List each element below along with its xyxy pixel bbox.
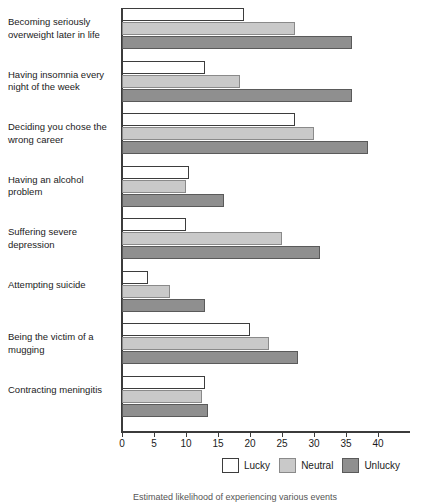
bar-group: [122, 271, 410, 313]
bar-group: [122, 218, 410, 260]
bar-group: [122, 376, 410, 418]
bar-group: [122, 113, 410, 155]
bar-row: [122, 113, 410, 126]
legend-label: Lucky: [244, 460, 270, 471]
category-label: Having insomnia every night of the week: [8, 69, 116, 94]
x-tick: [282, 432, 283, 437]
bar-row: [122, 166, 410, 179]
bar-unlucky: [122, 404, 208, 417]
bar-group: [122, 166, 410, 208]
bar-unlucky: [122, 194, 224, 207]
bar-lucky: [122, 376, 205, 389]
x-tick: [378, 432, 379, 437]
bar-unlucky: [122, 89, 352, 102]
category-label: Contracting meningitis: [8, 384, 116, 397]
bar-neutral: [122, 180, 186, 193]
x-tick-label: 0: [119, 438, 125, 449]
bar-row: [122, 194, 410, 207]
bar-row: [122, 246, 410, 259]
x-tick-label: 15: [212, 438, 223, 449]
legend-item: Neutral: [279, 458, 333, 473]
bar-lucky: [122, 271, 148, 284]
bar-row: [122, 75, 410, 88]
legend-item: Lucky: [222, 458, 270, 473]
x-tick-label: 10: [180, 438, 191, 449]
lucky-swatch: [222, 458, 239, 473]
bar-row: [122, 232, 410, 245]
bar-row: [122, 180, 410, 193]
x-tick: [314, 432, 315, 437]
x-tick: [186, 432, 187, 437]
bar-row: [122, 299, 410, 312]
category-label: Having an alcohol problem: [8, 174, 116, 199]
bar-row: [122, 8, 410, 21]
bar-unlucky: [122, 299, 205, 312]
x-tick-label: 20: [244, 438, 255, 449]
bar-row: [122, 218, 410, 231]
bar-unlucky: [122, 351, 298, 364]
bar-row: [122, 61, 410, 74]
bar-row: [122, 271, 410, 284]
bar-row: [122, 89, 410, 102]
bar-unlucky: [122, 141, 368, 154]
bar-neutral: [122, 390, 202, 403]
bar-row: [122, 351, 410, 364]
bar-row: [122, 285, 410, 298]
x-tick-label: 35: [340, 438, 351, 449]
bar-unlucky: [122, 246, 320, 259]
unlucky-swatch: [342, 458, 359, 473]
bar-group: [122, 61, 410, 103]
legend-label: Neutral: [301, 460, 333, 471]
category-label: Suffering severe depression: [8, 226, 116, 251]
bar-neutral: [122, 22, 295, 35]
bar-group: [122, 323, 410, 365]
category-label: Attempting suicide: [8, 279, 116, 292]
bar-row: [122, 141, 410, 154]
x-tick: [122, 432, 123, 437]
neutral-swatch: [279, 458, 296, 473]
x-tick: [250, 432, 251, 437]
x-tick: [218, 432, 219, 437]
x-tick-label: 40: [372, 438, 383, 449]
bar-row: [122, 22, 410, 35]
bar-row: [122, 337, 410, 350]
bar-row: [122, 323, 410, 336]
bar-row: [122, 390, 410, 403]
bar-row: [122, 404, 410, 417]
bar-row: [122, 36, 410, 49]
chart-legend: LuckyNeutralUnlucky: [222, 458, 400, 473]
bar-neutral: [122, 127, 314, 140]
bar-row: [122, 127, 410, 140]
category-label: Being the victim of a mugging: [8, 331, 116, 356]
bar-lucky: [122, 323, 250, 336]
plot-area: [122, 8, 410, 432]
x-tick: [154, 432, 155, 437]
bar-neutral: [122, 75, 240, 88]
chart-caption: Estimated likelihood of experiencing var…: [70, 492, 400, 503]
bar-unlucky: [122, 36, 352, 49]
bar-neutral: [122, 337, 269, 350]
bar-lucky: [122, 166, 189, 179]
category-label: Deciding you chose the wrong career: [8, 121, 116, 146]
legend-label: Unlucky: [364, 460, 400, 471]
bar-row: [122, 376, 410, 389]
category-label: Becoming seriously overweight later in l…: [8, 16, 116, 41]
bar-lucky: [122, 8, 244, 21]
bar-lucky: [122, 113, 295, 126]
x-tick-label: 30: [308, 438, 319, 449]
x-tick: [346, 432, 347, 437]
bar-neutral: [122, 232, 282, 245]
bar-neutral: [122, 285, 170, 298]
bar-group: [122, 8, 410, 50]
bar-lucky: [122, 218, 186, 231]
legend-item: Unlucky: [342, 458, 400, 473]
bar-lucky: [122, 61, 205, 74]
x-tick-label: 25: [276, 438, 287, 449]
x-tick-label: 5: [151, 438, 157, 449]
